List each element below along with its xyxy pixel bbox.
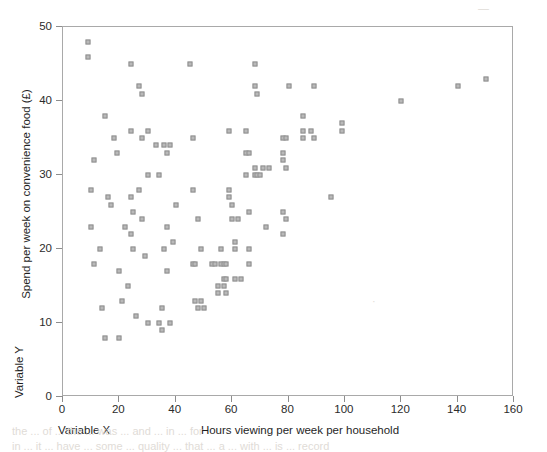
scatter-point <box>247 150 252 155</box>
scatter-point <box>89 187 94 192</box>
scatter-point <box>238 276 243 281</box>
scatter-point <box>300 136 305 141</box>
scatter-point <box>137 84 142 89</box>
x-tick-mark <box>400 396 401 402</box>
scatter-point <box>92 261 97 266</box>
scatter-point <box>311 136 316 141</box>
scatter-point <box>165 224 170 229</box>
scatter-point <box>286 84 291 89</box>
y-tick-label: 50 <box>39 20 52 32</box>
scatter-point <box>252 84 257 89</box>
scatter-point <box>168 143 173 148</box>
scatter-point <box>125 284 130 289</box>
scatter-point <box>266 165 271 170</box>
x-tick-mark <box>175 396 176 402</box>
scatter-point <box>89 224 94 229</box>
scatter-point <box>111 136 116 141</box>
scatter-point <box>328 195 333 200</box>
scatter-point <box>244 128 249 133</box>
scatter-point <box>120 298 125 303</box>
scatter-point <box>213 261 218 266</box>
scatter-point <box>199 247 204 252</box>
scatter-point <box>134 313 139 318</box>
scatter-point <box>86 54 91 59</box>
scan-artifact: — <box>478 2 489 14</box>
scatter-point <box>103 335 108 340</box>
x-axis-title: Hours viewing per week per household <box>160 424 440 436</box>
scatter-point <box>117 335 122 340</box>
scatter-point <box>154 143 159 148</box>
scatter-point <box>199 298 204 303</box>
scatter-point <box>196 306 201 311</box>
x-tick-mark <box>62 396 63 402</box>
scatter-point <box>483 76 488 81</box>
scatter-point <box>221 284 226 289</box>
scatter-point <box>187 62 192 67</box>
scatter-point <box>280 232 285 237</box>
scatter-point <box>165 150 170 155</box>
scatter-point <box>247 210 252 215</box>
scatter-point <box>139 91 144 96</box>
scatter-point <box>227 187 232 192</box>
scatter-point <box>128 128 133 133</box>
scatter-point <box>139 217 144 222</box>
plot-frame <box>62 26 513 396</box>
scatter-point <box>300 113 305 118</box>
scatter-point <box>156 321 161 326</box>
scatter-point <box>280 158 285 163</box>
scatter-point <box>309 128 314 133</box>
y-tick-label: 0 <box>46 390 52 402</box>
y-tick-label: 10 <box>39 316 52 328</box>
scatter-point <box>224 261 229 266</box>
scatter-point <box>216 291 221 296</box>
scatter-point <box>97 247 102 252</box>
scatter-point <box>168 321 173 326</box>
scatter-point <box>190 187 195 192</box>
scatter-point <box>244 173 249 178</box>
scatter-point <box>190 136 195 141</box>
x-tick-mark <box>513 396 514 402</box>
x-tick-mark <box>288 396 289 402</box>
scatter-point <box>123 224 128 229</box>
plot-data-area <box>63 27 512 395</box>
x-tick-mark <box>231 396 232 402</box>
scatter-point <box>165 269 170 274</box>
scatter-point <box>227 195 232 200</box>
scatter-point <box>311 84 316 89</box>
scatter-point <box>159 328 164 333</box>
scatter-point <box>131 210 136 215</box>
scatter-point <box>131 247 136 252</box>
scatter-point <box>300 128 305 133</box>
scatter-point <box>283 136 288 141</box>
scatter-point <box>193 261 198 266</box>
scatter-point <box>193 298 198 303</box>
scatter-point <box>340 128 345 133</box>
scatter-point <box>142 254 147 259</box>
scatter-point <box>196 217 201 222</box>
x-axis-variable-label: Variable X <box>58 424 128 436</box>
x-tick-mark <box>118 396 119 402</box>
scatter-point <box>399 99 404 104</box>
y-tick-label: 20 <box>39 242 52 254</box>
scatter-point <box>162 143 167 148</box>
x-tick-label: 100 <box>334 403 353 415</box>
scatter-point <box>100 306 105 311</box>
x-tick-label: 140 <box>447 403 466 415</box>
scatter-point <box>86 39 91 44</box>
scatter-point <box>280 210 285 215</box>
scatter-point <box>128 195 133 200</box>
scatter-point <box>280 150 285 155</box>
x-tick-label: 120 <box>391 403 410 415</box>
scatter-point <box>283 217 288 222</box>
scatter-point <box>156 173 161 178</box>
x-tick-label: 0 <box>59 403 65 415</box>
scatter-point <box>128 62 133 67</box>
scatter-point <box>340 121 345 126</box>
scatter-point <box>117 269 122 274</box>
scatter-point <box>232 247 237 252</box>
scatter-point <box>201 306 206 311</box>
scatter-point <box>252 62 257 67</box>
x-tick-label: 60 <box>225 403 238 415</box>
scatter-point <box>232 276 237 281</box>
scatter-point <box>106 195 111 200</box>
